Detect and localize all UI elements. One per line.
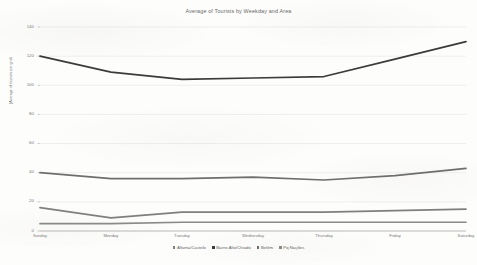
plot-area (0, 0, 477, 265)
legend-item[interactable]: Bairro Alto/Chiado (212, 245, 251, 250)
legend-item[interactable]: Pq Nações (279, 245, 304, 250)
legend-item[interactable]: Alfama/Castelo (173, 245, 206, 250)
chart-container: Average of Tourists by Weekday and Area … (0, 0, 477, 265)
series-lines (40, 42, 466, 224)
legend-swatch-icon (212, 246, 215, 249)
legend-swatch-icon (257, 246, 260, 249)
chart-legend: Alfama/CasteloBairro Alto/ChiadoBelémPq … (0, 245, 477, 250)
series-line (40, 42, 466, 80)
legend-swatch-icon (279, 246, 282, 249)
legend-swatch-icon (173, 246, 176, 249)
legend-item-label: Pq Nações (283, 245, 304, 250)
legend-item[interactable]: Belém (257, 245, 273, 250)
series-line (40, 208, 466, 218)
series-line (40, 168, 466, 180)
legend-item-label: Alfama/Castelo (177, 245, 206, 250)
series-line (40, 222, 466, 223)
legend-item-label: Belém (261, 245, 273, 250)
legend-item-label: Bairro Alto/Chiado (216, 245, 251, 250)
